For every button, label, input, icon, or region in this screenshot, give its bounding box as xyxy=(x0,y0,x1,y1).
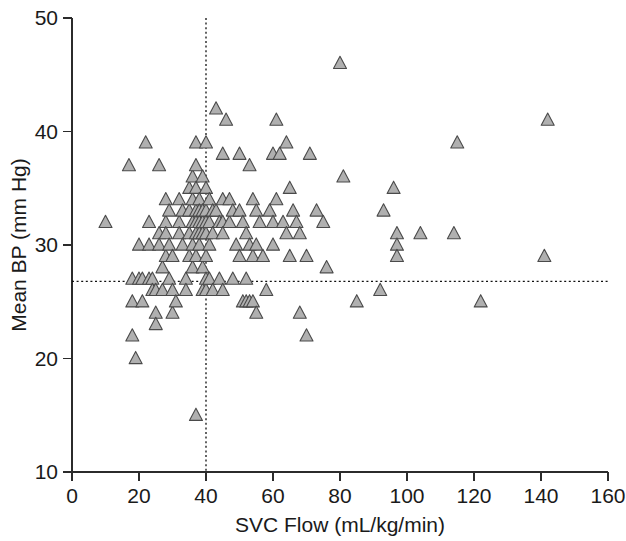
data-point xyxy=(538,249,551,261)
data-point xyxy=(210,102,223,114)
data-point xyxy=(233,249,246,261)
data-point xyxy=(250,306,263,318)
data-point xyxy=(310,204,323,216)
data-point xyxy=(213,272,226,284)
data-point xyxy=(277,215,290,227)
data-point xyxy=(541,113,554,125)
data-point xyxy=(173,193,186,205)
data-point xyxy=(243,158,256,170)
data-point xyxy=(374,283,387,295)
data-point xyxy=(290,215,303,227)
scatter-plot-figure: 1020304050020406080100120140160SVC Flow … xyxy=(0,0,626,541)
data-point xyxy=(320,261,333,273)
data-point xyxy=(149,317,162,329)
data-point xyxy=(451,136,464,148)
data-markers-group xyxy=(99,56,554,420)
axis-labels-group: 1020304050020406080100120140160SVC Flow … xyxy=(7,6,626,536)
plot-canvas: 1020304050020406080100120140160SVC Flow … xyxy=(0,0,626,541)
y-tick-label-10: 10 xyxy=(35,460,58,483)
data-point xyxy=(350,295,363,307)
y-tick-label-30: 30 xyxy=(35,233,58,256)
data-point xyxy=(156,261,169,273)
x-tick-label-60: 60 xyxy=(261,484,284,507)
data-point xyxy=(200,136,213,148)
data-point xyxy=(136,295,149,307)
data-point xyxy=(220,113,233,125)
data-point xyxy=(263,204,276,216)
x-tick-label-100: 100 xyxy=(389,484,424,507)
data-point xyxy=(253,215,266,227)
data-point xyxy=(287,204,300,216)
x-tick-label-80: 80 xyxy=(328,484,351,507)
y-tick-label-40: 40 xyxy=(35,120,58,143)
x-tick-label-40: 40 xyxy=(194,484,217,507)
x-tick-label-0: 0 xyxy=(66,484,78,507)
data-point xyxy=(179,283,192,295)
data-point xyxy=(283,181,296,193)
data-point xyxy=(226,272,239,284)
data-point xyxy=(216,147,229,159)
data-point xyxy=(149,306,162,318)
x-tick-label-160: 160 xyxy=(590,484,625,507)
data-point xyxy=(139,136,152,148)
data-point xyxy=(179,272,192,284)
data-point xyxy=(337,170,350,182)
data-point xyxy=(390,238,403,250)
data-point xyxy=(260,283,273,295)
data-point xyxy=(270,113,283,125)
data-point xyxy=(200,249,213,261)
data-point xyxy=(233,147,246,159)
data-point xyxy=(216,283,229,295)
data-point xyxy=(283,249,296,261)
data-point xyxy=(163,272,176,284)
data-point xyxy=(240,272,253,284)
x-tick-label-140: 140 xyxy=(523,484,558,507)
data-point xyxy=(129,351,142,363)
y-tick-label-20: 20 xyxy=(35,347,58,370)
data-point xyxy=(173,215,186,227)
data-point xyxy=(250,204,263,216)
data-point xyxy=(293,227,306,239)
data-point xyxy=(196,170,209,182)
data-point xyxy=(196,261,209,273)
data-point xyxy=(280,227,293,239)
data-point xyxy=(267,238,280,250)
data-point xyxy=(377,204,390,216)
data-point xyxy=(200,181,213,193)
data-point xyxy=(303,147,316,159)
data-point xyxy=(230,238,243,250)
x-tick-label-20: 20 xyxy=(127,484,150,507)
data-point xyxy=(474,295,487,307)
data-point xyxy=(189,408,202,420)
data-point xyxy=(126,329,139,341)
data-point xyxy=(163,238,176,250)
data-point xyxy=(246,193,259,205)
data-point xyxy=(270,193,283,205)
x-tick-label-120: 120 xyxy=(456,484,491,507)
data-point xyxy=(143,215,156,227)
data-point xyxy=(390,227,403,239)
data-point xyxy=(166,283,179,295)
data-point xyxy=(300,249,313,261)
data-point xyxy=(203,238,216,250)
data-point xyxy=(236,215,249,227)
data-point xyxy=(159,215,172,227)
data-point xyxy=(240,227,253,239)
data-point xyxy=(334,56,347,68)
data-point xyxy=(317,215,330,227)
y-tick-label-50: 50 xyxy=(35,6,58,29)
data-point xyxy=(280,136,293,148)
x-axis-title: SVC Flow (mL/kg/min) xyxy=(235,513,445,536)
data-point xyxy=(300,329,313,341)
data-point xyxy=(153,158,166,170)
data-point xyxy=(256,249,269,261)
y-axis-title: Mean BP (mm Hg) xyxy=(7,158,30,332)
data-point xyxy=(99,215,112,227)
data-point xyxy=(414,227,427,239)
data-point xyxy=(203,193,216,205)
data-point xyxy=(293,306,306,318)
data-point xyxy=(166,306,179,318)
data-point xyxy=(122,158,135,170)
data-point xyxy=(390,249,403,261)
data-point xyxy=(216,227,229,239)
